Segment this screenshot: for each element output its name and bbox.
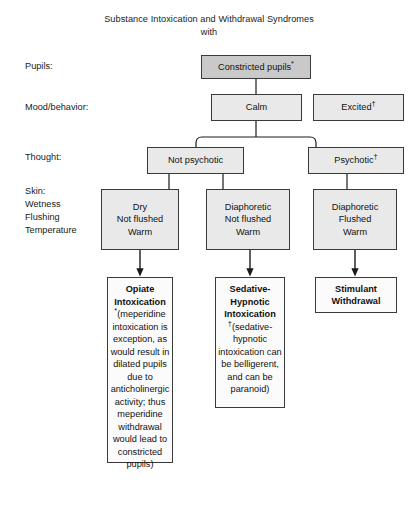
row-label-pupils: Pupils: — [25, 60, 53, 73]
row-label-skin-temperature: Temperature — [25, 224, 77, 237]
row-label-skin-wetness: Wetness — [25, 198, 61, 211]
node-outcome-stimulant-heading: Stimulant Withdrawal — [318, 283, 394, 308]
node-skin-right[interactable]: Diaphoretic Flushed Warm — [313, 189, 397, 250]
node-skin-middle-line-3: Warm — [236, 227, 260, 237]
row-label-skin: Skin: — [25, 185, 45, 198]
node-skin-left-line-2: Not flushed — [117, 214, 163, 224]
node-calm[interactable]: Calm — [211, 94, 302, 121]
node-outcome-opiate-intoxication[interactable]: Opiate Intoxication *(meperidine intoxic… — [107, 277, 173, 463]
node-outcome-opiate-note: (meperidine intoxication is exception, a… — [111, 309, 170, 469]
row-label-mood: Mood/behavior: — [25, 101, 88, 114]
node-skin-right-line-2: Flushed — [339, 214, 372, 224]
node-not-psychotic-label: Not psychotic — [168, 155, 223, 165]
node-psychotic-label: Psychotic — [334, 155, 373, 165]
node-excited-marker: † — [372, 99, 376, 108]
node-constricted-pupils-label: Constricted pupils — [218, 62, 291, 72]
node-psychotic[interactable]: Psychotic† — [308, 147, 404, 174]
node-skin-right-line-1: Diaphoretic — [332, 202, 378, 212]
flowchart-diagram: Substance Intoxication and Withdrawal Sy… — [0, 0, 418, 505]
node-skin-right-line-3: Warm — [343, 227, 367, 237]
node-skin-middle-line-1: Diaphoretic — [225, 202, 271, 212]
node-excited[interactable]: Excited† — [313, 94, 404, 121]
node-psychotic-marker: † — [374, 152, 378, 161]
row-label-skin-flushing: Flushing — [25, 211, 60, 224]
node-skin-left-line-3: Warm — [128, 227, 152, 237]
page-title-line-1: Substance Intoxication and Withdrawal Sy… — [0, 13, 418, 26]
node-skin-middle[interactable]: Diaphoretic Not flushed Warm — [206, 189, 290, 250]
node-outcome-opiate-heading: Opiate Intoxication — [110, 283, 170, 308]
node-skin-left-line-1: Dry — [133, 202, 147, 212]
node-constricted-pupils-marker: * — [291, 59, 294, 68]
page-title-line-2: with — [0, 26, 418, 39]
node-outcome-sedative-heading: Sedative- Hypnotic Intoxication — [218, 283, 282, 321]
node-calm-label: Calm — [246, 102, 267, 112]
node-outcome-sedative-hypnotic-intoxication[interactable]: Sedative- Hypnotic Intoxication †(sedati… — [215, 277, 285, 408]
node-not-psychotic[interactable]: Not psychotic — [147, 147, 244, 174]
node-skin-middle-line-2: Not flushed — [225, 214, 271, 224]
node-outcome-stimulant-withdrawal[interactable]: Stimulant Withdrawal — [315, 277, 397, 313]
node-constricted-pupils[interactable]: Constricted pupils* — [201, 55, 311, 79]
node-skin-left[interactable]: Dry Not flushed Warm — [101, 189, 179, 250]
row-label-thought: Thought: — [25, 151, 61, 164]
node-excited-label: Excited — [341, 102, 371, 112]
node-outcome-sedative-note: (sedative-hypnotic intoxication can be b… — [218, 322, 281, 395]
